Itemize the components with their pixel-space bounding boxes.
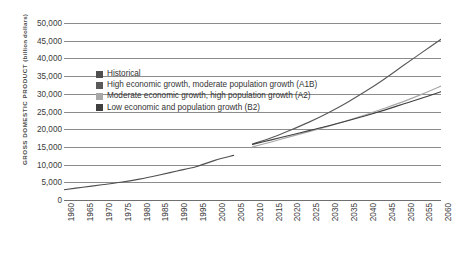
y-axis-tick-labels: 50,00045,00040,00035,00030,00025,00020,0… <box>22 0 62 260</box>
legend-swatch-icon <box>96 82 103 89</box>
x-axis-tick-label: 2020 <box>293 203 302 221</box>
legend-item: Low economic and population growth (B2) <box>96 103 317 113</box>
chart-legend: HistoricalHigh economic growth, moderate… <box>96 69 317 113</box>
x-axis-tick-label: 2005 <box>237 203 246 221</box>
x-axis-tick-label: 2050 <box>407 203 416 221</box>
y-axis-tick-label: 35,000 <box>37 72 62 81</box>
legend-item: Moderate economic growth, high populatio… <box>96 91 317 101</box>
x-axis-tick-label: 2060 <box>444 203 453 221</box>
y-axis-tick-label: 0 <box>57 196 62 205</box>
x-axis-tick-label: 1990 <box>180 203 189 221</box>
x-axis-tick-label: 1985 <box>161 203 170 221</box>
y-axis-tick-label: 10,000 <box>37 160 62 169</box>
legend-item-label: Historical <box>107 69 141 79</box>
series-line <box>64 155 234 189</box>
y-axis-tick-label: 40,000 <box>37 54 62 63</box>
y-axis-tick-label: 30,000 <box>37 89 62 98</box>
y-axis-tick-label: 20,000 <box>37 125 62 134</box>
gdp-projection-chart: GROSS DOMESTIC PRODUCT (billion dollars)… <box>0 0 457 260</box>
y-axis-tick-label: 15,000 <box>37 142 62 151</box>
x-axis-tick-label: 2040 <box>369 203 378 221</box>
x-axis-tick-label: 1965 <box>86 203 95 221</box>
legend-swatch-icon <box>96 71 103 78</box>
x-axis-tick-label: 1980 <box>143 203 152 221</box>
y-axis-tick-label: 45,000 <box>37 36 62 45</box>
legend-item-label: High economic growth, moderate populatio… <box>107 80 317 90</box>
y-axis-tick-label: 5,000 <box>42 178 63 187</box>
legend-item-label: Low economic and population growth (B2) <box>107 103 260 113</box>
y-axis-tick-label: 50,000 <box>37 19 62 28</box>
x-axis-tick-label: 1970 <box>105 203 114 221</box>
x-axis-tick-label: 1960 <box>67 203 76 221</box>
legend-item: Historical <box>96 69 317 79</box>
x-axis-tick-labels: 1960196519701975198019851990199520002005… <box>64 203 441 259</box>
x-axis-tick-label: 1995 <box>199 203 208 221</box>
y-axis-tick-label: 25,000 <box>37 107 62 116</box>
x-axis-tick-label: 2010 <box>256 203 265 221</box>
x-axis-tick-label: 2035 <box>350 203 359 221</box>
x-axis-tick-label: 2030 <box>331 203 340 221</box>
x-axis-tick-label: 2055 <box>425 203 434 221</box>
x-axis-tick-label: 1975 <box>124 203 133 221</box>
legend-swatch-icon <box>96 93 103 100</box>
x-axis-tick-label: 2000 <box>218 203 227 221</box>
legend-swatch-icon <box>96 104 103 111</box>
legend-item: High economic growth, moderate populatio… <box>96 80 317 90</box>
gridline <box>64 200 441 201</box>
x-axis-tick-label: 2045 <box>388 203 397 221</box>
x-axis-tick-label: 2015 <box>275 203 284 221</box>
legend-item-label: Moderate economic growth, high populatio… <box>107 91 310 101</box>
x-axis-tick-label: 2025 <box>312 203 321 221</box>
